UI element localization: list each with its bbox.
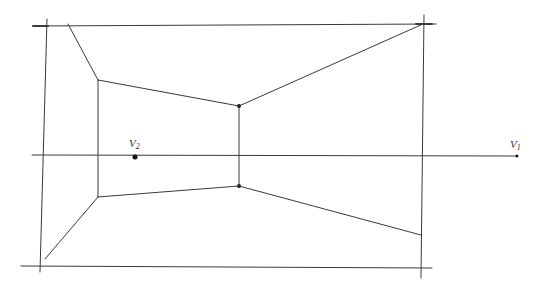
- perspective-drawing: V2 V1: [0, 0, 540, 289]
- vanishing-point-v1: [516, 155, 519, 158]
- vanishing-point-v2: [133, 155, 138, 160]
- ceiling-left-diagonal: [68, 24, 98, 80]
- frame-top-line: [33, 24, 436, 26]
- floor-left-diagonal: [45, 197, 98, 259]
- v2-label: V2: [129, 137, 140, 151]
- frame-left-line: [40, 19, 47, 272]
- ceiling-back-edge: [98, 80, 239, 106]
- vertex-top: [237, 104, 241, 108]
- floor-right-diagonal: [239, 186, 421, 235]
- vertex-bottom: [237, 184, 241, 188]
- v1-label: V1: [510, 138, 521, 152]
- horizon-line: [32, 155, 517, 156]
- ceiling-right-diagonal: [239, 24, 423, 106]
- frame-bottom-line: [21, 266, 432, 268]
- frame-right-line: [421, 15, 424, 278]
- floor-back-edge: [98, 186, 239, 197]
